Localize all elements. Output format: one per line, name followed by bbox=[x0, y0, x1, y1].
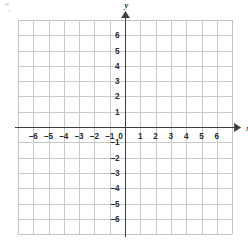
x-tick-label: 5 bbox=[199, 132, 204, 141]
x-axis-label: x bbox=[245, 123, 248, 133]
coordinate-grid-figure: –6–5–4–3–2–10123456654321–1–2–3–4–5–6 x … bbox=[0, 0, 248, 244]
y-tick-label: –2 bbox=[110, 154, 120, 163]
x-tick-label: 1 bbox=[138, 132, 143, 141]
y-axis-arrowhead bbox=[121, 11, 130, 18]
y-tick-label: –5 bbox=[110, 200, 120, 209]
y-tick-label: 6 bbox=[115, 31, 120, 40]
y-tick-label: 1 bbox=[115, 108, 120, 117]
y-tick-label: 2 bbox=[115, 92, 120, 101]
x-tick-label: –3 bbox=[75, 132, 85, 141]
x-tick-label: –5 bbox=[44, 132, 54, 141]
y-tick-label: –4 bbox=[110, 184, 120, 193]
y-tick-label: 4 bbox=[115, 62, 120, 71]
y-tick-label: –6 bbox=[110, 215, 120, 224]
x-tick-label: –4 bbox=[59, 132, 69, 141]
x-tick-label: 4 bbox=[184, 132, 189, 141]
x-axis-arrowhead bbox=[234, 123, 241, 132]
y-tick-label: 5 bbox=[115, 47, 120, 56]
axes-group bbox=[15, 11, 241, 237]
coordinate-plane-svg: –6–5–4–3–2–10123456654321–1–2–3–4–5–6 x … bbox=[0, 0, 248, 244]
x-tick-label: –6 bbox=[29, 132, 39, 141]
y-tick-label: 3 bbox=[115, 77, 120, 86]
y-tick-label: –3 bbox=[110, 169, 120, 178]
y-tick-label: –1 bbox=[110, 138, 120, 147]
x-tick-label: 3 bbox=[169, 132, 174, 141]
y-axis-label: y bbox=[124, 0, 129, 10]
x-tick-label: –2 bbox=[90, 132, 100, 141]
x-tick-label: 6 bbox=[215, 132, 220, 141]
x-tick-label: 2 bbox=[153, 132, 158, 141]
